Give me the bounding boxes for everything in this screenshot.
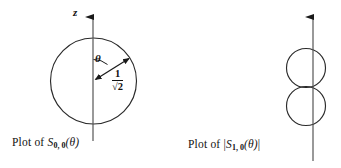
- caption-argument: (θ): [244, 138, 258, 150]
- caption-bar-close: |: [258, 138, 261, 150]
- theta-label: θ: [95, 52, 101, 64]
- radius-value-label: 1 √2: [112, 68, 123, 92]
- caption-prefix: Plot of: [188, 138, 223, 150]
- caption-argument: (θ): [65, 136, 79, 148]
- fraction-denominator: √2: [112, 81, 123, 92]
- caption-subscript: 1, 0: [232, 143, 244, 152]
- left-plot-caption: Plot of S0, 0(θ): [12, 136, 79, 150]
- z-axis-label: z: [73, 6, 77, 18]
- right-plot-caption: Plot of |S1, 0(θ)|: [188, 138, 260, 152]
- caption-prefix: Plot of: [12, 136, 47, 148]
- spherical-harmonics-figure: z θ 1 √2 Plot of S0, 0(θ) z +: [0, 0, 341, 168]
- left-plot-panel: z θ 1 √2 Plot of S0, 0(θ): [0, 0, 170, 168]
- right-plot-panel: z + − Plot of |S1, 0(θ)|: [170, 0, 341, 168]
- fraction-numerator: 1: [112, 68, 123, 79]
- lower-lobe-circle: [287, 87, 326, 126]
- upper-lobe-circle: [287, 49, 326, 88]
- caption-subscript: 0, 0: [53, 141, 65, 150]
